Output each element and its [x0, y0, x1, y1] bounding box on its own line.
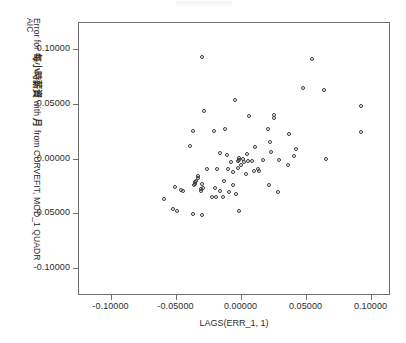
scatter-point — [245, 152, 249, 156]
scatter-point — [205, 167, 209, 171]
scatter-point — [218, 189, 222, 193]
scatter-point — [266, 127, 270, 131]
plot-area-frame — [78, 22, 390, 295]
scatter-point — [171, 207, 175, 211]
y-axis-tick — [73, 213, 78, 214]
y-axis-tick-label: -0.10000 — [0, 262, 70, 272]
scatter-point — [191, 212, 195, 216]
scatter-point — [236, 166, 240, 170]
scatter-point — [261, 158, 265, 162]
y-title-cjk-hourly-wage: 每小時薪資 — [32, 53, 42, 99]
scatter-point — [227, 190, 231, 194]
scatter-point — [268, 140, 272, 144]
scatter-point — [277, 158, 281, 162]
scatter-point — [193, 180, 197, 184]
x-axis-title: LAGS(ERR_1, 1) — [78, 318, 390, 328]
scatter-point — [322, 88, 326, 92]
scatter-point — [324, 157, 328, 161]
y-axis-tick-label: -0.05000 — [0, 207, 70, 217]
scatter-point — [234, 192, 238, 196]
scatter-point — [272, 116, 276, 120]
scatter-point — [202, 109, 206, 113]
y-title-cjk-month: 月 — [32, 118, 42, 127]
faint-header-artifact — [176, 1, 232, 7]
scatter-point — [310, 57, 314, 61]
scatter-point — [233, 98, 237, 102]
scatter-point — [250, 159, 254, 163]
scatter-point — [181, 189, 185, 193]
scatter-point — [276, 190, 280, 194]
scatter-point — [286, 163, 290, 167]
scatter-point — [201, 186, 205, 190]
scatter-point — [215, 167, 219, 171]
scatter-point — [359, 130, 363, 134]
scatter-point — [221, 195, 225, 199]
scatter-point — [244, 172, 248, 176]
scatter-point — [237, 209, 241, 213]
scatter-point — [222, 179, 226, 183]
scatter-point — [173, 185, 177, 189]
scatter-point — [253, 145, 257, 149]
x-axis-tick — [371, 295, 372, 300]
scatter-point — [231, 170, 235, 174]
scatter-point — [239, 163, 243, 167]
scatter-point — [175, 209, 179, 213]
y-axis-title-line2: Error for 每小時薪資 with 月 from CURVEFIT, MO… — [31, 18, 44, 261]
scatter-point — [294, 147, 298, 151]
x-axis-tick — [176, 295, 177, 300]
scatter-point — [200, 55, 204, 59]
scatter-points-layer — [79, 23, 389, 294]
y-axis-tick-label: 0.10000 — [0, 43, 70, 53]
scatter-point — [287, 132, 291, 136]
y-axis-tick-label: 0.00000 — [0, 153, 70, 163]
y-axis-tick-label: 0.05000 — [0, 98, 70, 108]
y-axis-tick — [73, 268, 78, 269]
scatter-point — [226, 167, 230, 171]
scatter-point — [225, 153, 229, 157]
x-axis-tick — [306, 295, 307, 300]
scatter-point — [292, 154, 296, 158]
scatter-point — [200, 213, 204, 217]
scatter-point — [212, 129, 216, 133]
scatter-point — [231, 183, 235, 187]
scatter-point — [269, 150, 273, 154]
scatter-point — [247, 114, 251, 118]
scatter-point — [191, 129, 195, 133]
scatter-point — [223, 127, 227, 131]
x-axis-tick — [111, 295, 112, 300]
scatter-point — [229, 160, 233, 164]
y-axis-tick — [73, 159, 78, 160]
scatter-point — [214, 195, 218, 199]
scatter-point — [162, 197, 166, 201]
scatter-point — [218, 151, 222, 155]
y-axis-tick — [73, 49, 78, 50]
scatter-point — [359, 104, 363, 108]
x-axis-tick-label: 0.10000 — [331, 301, 406, 311]
scatter-point — [301, 86, 305, 90]
y-title-suffix: from CURVEFIT, MOD_1 QUADR — [32, 128, 42, 261]
scatter-plot-figure: AIC Error for 每小時薪資 with 月 from CURVEFIT… — [0, 0, 406, 343]
x-axis-tick — [241, 295, 242, 300]
y-axis-tick — [73, 104, 78, 105]
scatter-point — [267, 183, 271, 187]
scatter-point — [213, 186, 217, 190]
scatter-point — [188, 144, 192, 148]
